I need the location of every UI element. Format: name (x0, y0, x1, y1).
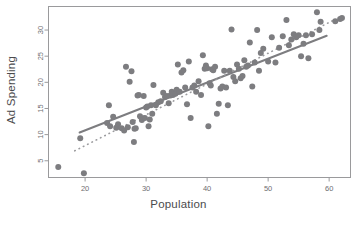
data-point (229, 27, 235, 33)
data-point (158, 98, 164, 104)
data-point (221, 68, 227, 74)
data-point (241, 57, 247, 63)
data-point (166, 100, 172, 106)
data-point (214, 111, 220, 117)
y-tick-label: 20 (36, 78, 45, 86)
data-point (254, 27, 260, 33)
data-point (316, 27, 322, 33)
data-point (314, 9, 320, 15)
data-point (208, 82, 214, 88)
data-point (252, 59, 258, 65)
data-point (55, 164, 61, 170)
scatter-plot-figure: 203040506051015202530 Ad Spending Popula… (0, 0, 357, 225)
y-axis-label-container: Ad Spending (0, 0, 22, 180)
data-point (276, 45, 282, 51)
data-point (146, 123, 152, 129)
data-point (280, 33, 286, 39)
data-point (212, 64, 218, 70)
data-point (133, 125, 139, 131)
data-point (272, 59, 278, 65)
data-point (77, 135, 83, 141)
data-point (149, 111, 155, 117)
data-point (232, 78, 238, 84)
data-point (260, 46, 266, 52)
y-tick-label: 30 (36, 26, 45, 34)
x-axis-label: Population (0, 198, 357, 210)
data-point (223, 85, 229, 91)
data-point (188, 115, 194, 121)
data-point (123, 64, 129, 70)
y-axis-label: Ad Spending (5, 56, 17, 124)
data-point (150, 82, 156, 88)
x-tick-label: 50 (264, 184, 272, 193)
data-point (205, 123, 211, 129)
data-point (227, 68, 233, 74)
data-point (106, 102, 112, 108)
y-tick-label: 10 (36, 130, 45, 138)
data-point (256, 68, 262, 74)
data-point (186, 58, 192, 64)
data-point (303, 32, 309, 38)
data-point (130, 119, 136, 125)
data-point (127, 79, 133, 85)
data-point (247, 40, 253, 46)
data-point (147, 116, 153, 122)
data-point (141, 93, 147, 99)
data-point (286, 42, 292, 48)
data-point (107, 123, 113, 129)
y-tick-label: 25 (36, 52, 45, 60)
x-tick-label: 40 (203, 184, 211, 193)
data-point (184, 101, 190, 107)
data-point (283, 17, 289, 23)
data-point (110, 114, 116, 120)
data-point (318, 19, 324, 25)
data-point (225, 102, 231, 108)
data-point (309, 31, 315, 37)
data-point (196, 78, 202, 84)
x-tick-label: 60 (325, 184, 333, 193)
y-tick-label: 15 (36, 104, 45, 112)
data-point (236, 66, 242, 72)
data-point (182, 85, 188, 91)
data-point (81, 170, 87, 176)
data-point (240, 73, 246, 79)
data-point (128, 68, 134, 74)
data-point (249, 84, 255, 90)
data-point (269, 34, 275, 40)
data-point (245, 63, 251, 69)
data-point (131, 139, 137, 145)
x-tick-label: 30 (142, 184, 150, 193)
plot-frame (49, 7, 351, 178)
y-tick-label: 5 (36, 159, 45, 163)
data-point (180, 67, 186, 73)
data-point (216, 101, 222, 107)
data-point (175, 62, 181, 68)
data-point (198, 92, 204, 98)
data-point (191, 82, 197, 88)
chart-canvas: 203040506051015202530 (0, 0, 357, 225)
data-point (301, 41, 307, 47)
data-point (305, 55, 311, 61)
data-point (339, 15, 345, 21)
data-point (265, 58, 271, 64)
data-point (177, 89, 183, 95)
data-point (296, 32, 302, 38)
data-point (298, 53, 304, 59)
data-point (200, 52, 206, 58)
data-point (125, 124, 131, 130)
x-tick-label: 20 (81, 184, 89, 193)
